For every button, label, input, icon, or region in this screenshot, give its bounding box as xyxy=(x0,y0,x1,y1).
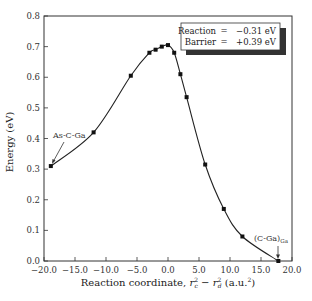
y-axis-ticks: 0.00.10.20.30.40.50.60.70.8 xyxy=(26,11,48,266)
data-points xyxy=(49,43,281,263)
x-tick-label: −20.0 xyxy=(31,265,57,275)
legend-barrier-eq: = xyxy=(220,37,227,47)
energy-curve xyxy=(51,45,279,261)
y-axis-label: Energy (eV) xyxy=(4,112,15,173)
y-tick-label: 0.8 xyxy=(26,11,40,21)
data-point-marker xyxy=(49,164,53,168)
annotation-c-ga: (C-Ga)Ga xyxy=(254,234,289,244)
y-tick-label: 0.5 xyxy=(26,103,40,113)
legend-barrier-value: +0.39 eV xyxy=(236,37,277,47)
x-tick-label: 15.0 xyxy=(252,265,271,275)
data-point-marker xyxy=(178,72,182,76)
x-tick-label: 0.0 xyxy=(161,265,175,275)
data-point-marker xyxy=(276,259,280,263)
data-point-marker xyxy=(154,48,158,52)
x-tick-label: −10.0 xyxy=(93,265,119,275)
x-tick-label: 20.0 xyxy=(283,265,302,275)
data-point-marker xyxy=(147,51,151,55)
legend-reaction-eq: = xyxy=(220,26,227,36)
x-tick-label: −5.0 xyxy=(127,265,148,275)
y-tick-label: 0.2 xyxy=(26,195,40,205)
data-point-marker xyxy=(185,95,189,99)
data-point-marker xyxy=(129,74,133,78)
data-point-marker xyxy=(172,51,176,55)
x-tick-label: 10.0 xyxy=(221,265,240,275)
legend-reaction-value: −0.31 eV xyxy=(236,26,277,36)
data-point-marker xyxy=(240,235,244,239)
annotation-arrow-as-c-ga xyxy=(53,142,64,162)
data-point-marker xyxy=(160,45,164,49)
data-point-marker xyxy=(203,163,207,167)
data-point-marker xyxy=(92,130,96,134)
legend-barrier-label: Barrier xyxy=(185,37,217,47)
y-tick-label: 0.3 xyxy=(26,164,40,174)
legend-box: Reaction = −0.31 eV Barrier = +0.39 eV xyxy=(178,23,286,55)
data-point-marker xyxy=(222,207,226,211)
x-axis-ticks: −20.0−15.0−10.0−5.00.05.010.015.020.0 xyxy=(31,257,302,275)
x-tick-label: 5.0 xyxy=(192,265,206,275)
y-tick-label: 0.1 xyxy=(26,225,40,235)
energy-profile-chart: 0.00.10.20.30.40.50.60.70.8 −20.0−15.0−1… xyxy=(0,0,312,301)
x-tick-label: −15.0 xyxy=(62,265,88,275)
y-tick-label: 0.6 xyxy=(26,72,40,82)
legend-reaction-label: Reaction xyxy=(178,26,217,36)
x-axis-label: Reaction coordinate, r2c − r2d (a.u.2) xyxy=(81,276,255,289)
annotation-as-c-ga: As-C-Ga xyxy=(52,131,86,140)
y-tick-label: 0.7 xyxy=(26,42,40,52)
data-point-marker xyxy=(166,43,170,47)
y-tick-label: 0.4 xyxy=(26,134,40,144)
arrowhead-icon xyxy=(276,255,280,260)
